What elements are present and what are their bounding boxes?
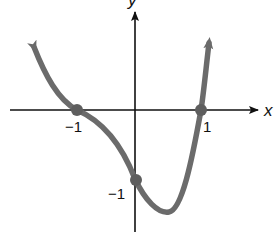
point-y-neg1 — [130, 174, 142, 186]
y-axis-label: y — [127, 0, 138, 10]
x-axis-label: x — [263, 101, 273, 120]
tick-label-x-neg1: −1 — [65, 118, 82, 135]
graph-canvas: x y −1 1 −1 — [0, 0, 276, 235]
point-x-pos1 — [195, 104, 207, 116]
function-graph: x y −1 1 −1 — [0, 0, 276, 235]
tick-label-x-pos1: 1 — [203, 118, 211, 135]
point-x-neg1 — [71, 104, 83, 116]
tick-label-y-neg1: −1 — [108, 185, 125, 202]
